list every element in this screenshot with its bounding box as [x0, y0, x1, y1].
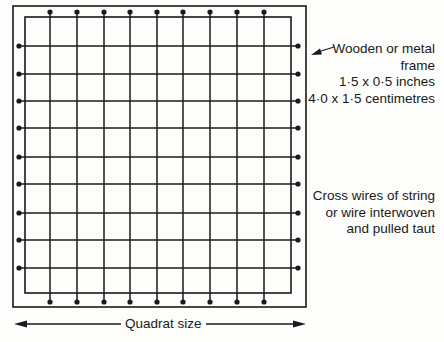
bottom-anchor-dot	[154, 299, 159, 304]
cross-wires-label: Cross wires of string or wire interwoven…	[313, 188, 435, 238]
frame-label-line: Wooden or metal	[308, 41, 435, 58]
right-anchor-dot	[295, 98, 300, 103]
frame-label: Wooden or metal frame 1·5 x 0·5 inches 4…	[308, 41, 435, 107]
cross-wires-label-line: or wire interwoven	[313, 205, 435, 222]
top-anchor-dot	[180, 9, 185, 14]
right-anchor-dot	[295, 210, 300, 215]
bottom-anchor-dot	[180, 299, 185, 304]
cross-wires-label-line: Cross wires of string	[313, 188, 435, 205]
left-anchor-dot	[16, 43, 21, 48]
bottom-anchor-dot	[261, 299, 266, 304]
right-anchor-dot	[295, 237, 300, 242]
right-anchor-dot	[295, 181, 300, 186]
right-anchor-dot	[295, 125, 300, 130]
bottom-anchor-dot	[47, 299, 52, 304]
right-anchor-dot	[295, 265, 300, 270]
left-anchor-dot	[16, 98, 21, 103]
left-anchor-dot	[16, 125, 21, 130]
top-anchor-dot	[47, 9, 52, 14]
right-anchor-dot	[295, 154, 300, 159]
bottom-anchor-dot	[74, 299, 79, 304]
horizontal-wires	[19, 46, 298, 268]
cross-wires-label-line: and pulled taut	[313, 221, 435, 238]
top-anchor-dot	[127, 9, 132, 14]
top-anchor-dot	[261, 9, 266, 14]
quadrat-size-label: Quadrat size	[121, 316, 206, 331]
right-anchor-dot	[295, 71, 300, 76]
bottom-anchor-dot	[207, 299, 212, 304]
top-anchor-dot	[74, 9, 79, 14]
top-anchor-dot	[154, 9, 159, 14]
left-anchor-dot	[16, 154, 21, 159]
left-anchor-dot	[16, 71, 21, 76]
left-anchor-dot	[16, 210, 21, 215]
top-anchor-dot	[101, 9, 106, 14]
inner-frame	[25, 17, 291, 293]
left-anchor-dot	[16, 237, 21, 242]
right-anchor-dot	[295, 43, 300, 48]
bottom-anchor-dot	[234, 299, 239, 304]
top-anchor-dot	[207, 9, 212, 14]
frame-dimensions-inches: 1·5 x 0·5 inches	[308, 74, 435, 91]
bottom-anchor-dot	[101, 299, 106, 304]
left-anchor-dot	[16, 181, 21, 186]
frame-dimensions-cm: 4·0 x 1·5 centimetres	[308, 91, 435, 108]
top-anchor-dot	[234, 9, 239, 14]
left-anchor-dot	[16, 265, 21, 270]
bottom-anchor-dot	[127, 299, 132, 304]
frame-label-line: frame	[308, 58, 435, 75]
